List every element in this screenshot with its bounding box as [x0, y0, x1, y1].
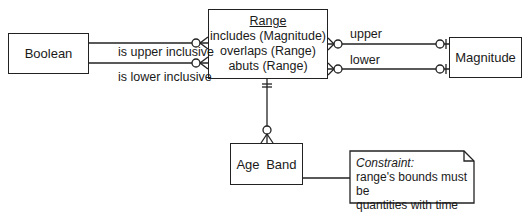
relationship-is-upper-inclusive: is upper inclusive — [118, 45, 214, 59]
relationship-is-lower-inclusive: is lower inclusive — [118, 70, 212, 84]
entity-boolean-name: Boolean — [25, 46, 73, 61]
relationship-upper: upper — [350, 27, 382, 41]
constraint-note-title: Constraint: — [356, 156, 468, 170]
constraint-note-line1: range's bounds must be — [356, 170, 468, 198]
entity-magnitude[interactable]: Magnitude — [449, 37, 522, 78]
entity-range[interactable]: Range includes (Magnitude) overlaps (Ran… — [208, 9, 328, 79]
constraint-note: Constraint: range's bounds must be quant… — [350, 152, 474, 214]
range-operation-abuts: abuts (Range) — [228, 59, 307, 74]
entity-boolean[interactable]: Boolean — [8, 33, 89, 74]
range-operation-includes: includes (Magnitude) — [210, 29, 326, 44]
relationship-lower: lower — [350, 53, 380, 67]
entity-age-band-name: Age Band — [236, 157, 296, 172]
range-operation-overlaps: overlaps (Range) — [220, 44, 316, 59]
entity-magnitude-name: Magnitude — [455, 50, 516, 65]
entity-age-band[interactable]: Age Band — [230, 143, 303, 185]
constraint-note-line2: quantities with time units — [356, 198, 468, 214]
entity-range-name: Range — [250, 14, 287, 29]
